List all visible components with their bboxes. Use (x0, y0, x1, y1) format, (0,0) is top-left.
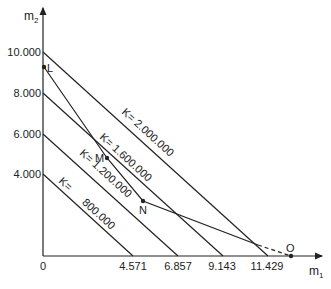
x-tick-label: 4.571 (119, 260, 147, 272)
y-axis-label: m2 (24, 9, 39, 25)
budget-line-chart: m2 m1 10.000 8.000 6.000 4.000 0 4.571 6… (0, 0, 331, 289)
y-tick-label: 10.000 (7, 46, 41, 58)
y-tick-label: 8.000 (13, 87, 41, 99)
point-label-o: O (286, 242, 295, 254)
x-axis-label: m1 (309, 264, 324, 280)
x-tick-label: 9.143 (208, 260, 236, 272)
point-label-m: M (95, 152, 104, 164)
point-n (141, 199, 145, 203)
k-line-2000000 (43, 52, 268, 256)
point-label-l: L (47, 62, 53, 74)
x-tick-label: 6.857 (164, 260, 192, 272)
y-tick-label: 6.000 (13, 128, 41, 140)
point-o (289, 254, 293, 258)
y-tick-label: 4.000 (13, 168, 41, 180)
point-label-n: N (139, 204, 147, 216)
k-line-1200000 (43, 134, 178, 256)
point-l (42, 65, 46, 69)
point-m (105, 156, 109, 160)
x-tick-label: 11.429 (251, 260, 284, 272)
origin-label: 0 (40, 260, 46, 272)
